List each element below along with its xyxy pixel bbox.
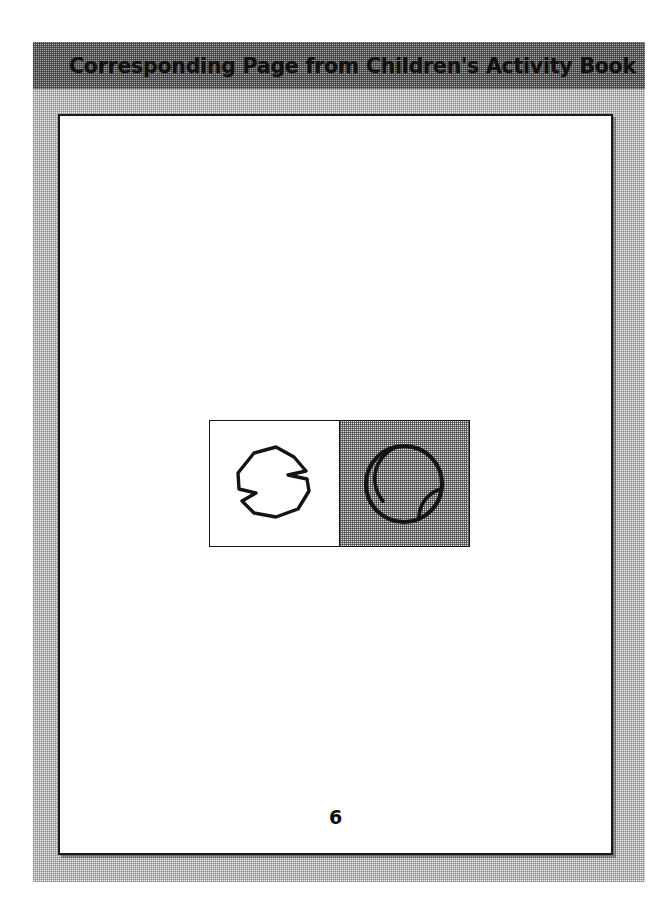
page-number: 6 xyxy=(60,806,611,828)
page-title: Corresponding Page from Children's Activ… xyxy=(69,53,636,78)
blob-icon xyxy=(214,429,334,539)
header-band: Corresponding Page from Children's Activ… xyxy=(33,42,645,89)
blob-panel xyxy=(210,421,340,546)
activity-book-page: 6 xyxy=(58,114,613,855)
illustration-frame xyxy=(209,420,470,547)
ball-icon xyxy=(349,429,459,539)
ball-panel xyxy=(340,421,470,546)
